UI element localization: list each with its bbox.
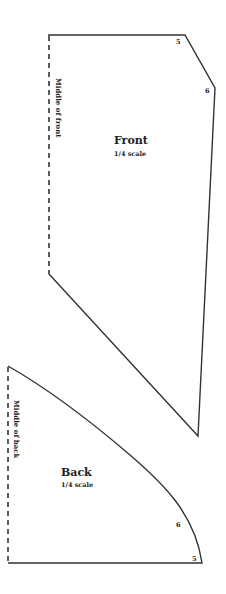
front-point-6-label: 6 [205, 87, 210, 95]
back-outline [8, 366, 202, 563]
back-point-6-label: 6 [176, 521, 181, 529]
front-fold-label: Middle of front [54, 78, 63, 138]
front-title: Front [114, 134, 149, 147]
front-outline [48, 35, 215, 436]
front-point-5-label: 5 [176, 38, 181, 46]
front-piece: 5 6 Front 1/4 scale Middle of front [48, 35, 215, 436]
back-fold-label: Middle of back [12, 400, 21, 459]
back-title: Back [61, 466, 92, 479]
front-scale-label: 1/4 scale [114, 150, 146, 158]
back-piece: 6 5 Back 1/4 scale Middle of back [8, 366, 202, 563]
pattern-diagram: 5 6 Front 1/4 scale Middle of front 6 5 … [0, 0, 226, 594]
back-scale-label: 1/4 scale [61, 481, 93, 489]
back-point-5-label: 5 [192, 555, 197, 563]
